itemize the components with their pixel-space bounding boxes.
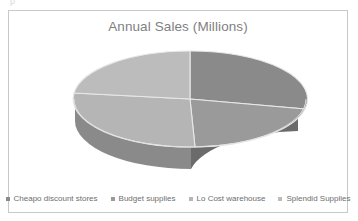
chart-title: Annual Sales (Millions) [9, 19, 347, 34]
legend-item-cheapo-discount-stores[interactable]: Cheapo discount stores [6, 194, 98, 203]
pie-plot-area [9, 37, 347, 185]
legend-item-splendid-supplies[interactable]: Splendid Supplies [278, 194, 350, 203]
pie-chart-svg [9, 37, 347, 185]
chart-frame: Annual Sales (Millions) [8, 10, 348, 213]
pie-chart-screenshot: p Annual Sales (Millions) [0, 0, 358, 221]
legend-swatch-icon [111, 197, 115, 201]
legend-item-budget-supplies[interactable]: Budget supplies [111, 194, 176, 203]
legend-label: Splendid Supplies [286, 194, 350, 203]
legend-swatch-icon [6, 197, 10, 201]
legend-swatch-icon [189, 197, 193, 201]
chart-legend: Cheapo discount stores Budget supplies L… [9, 194, 347, 203]
legend-label: Cheapo discount stores [14, 194, 98, 203]
legend-label: Lo Cost warehouse [197, 194, 266, 203]
legend-item-lo-cost-warehouse[interactable]: Lo Cost warehouse [189, 194, 266, 203]
pie-slice-splendid-supplies [74, 51, 190, 99]
legend-swatch-icon [278, 197, 282, 201]
cropped-text-artifact: p [10, 0, 130, 6]
legend-label: Budget supplies [119, 194, 176, 203]
